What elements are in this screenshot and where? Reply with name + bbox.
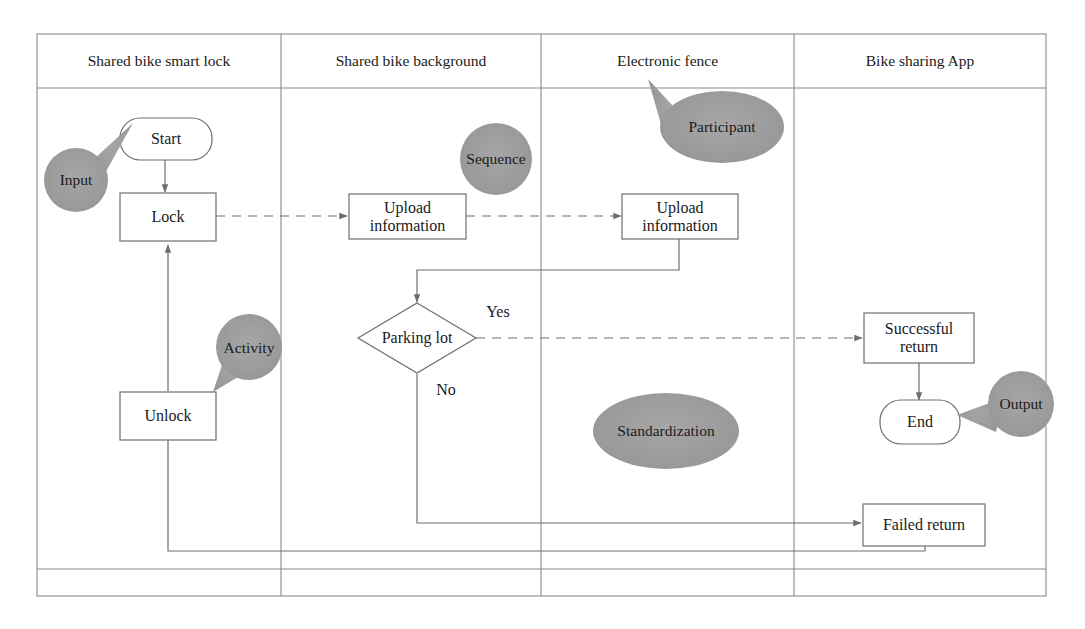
node-shape-parking-lot: [358, 303, 476, 373]
node-shape-start: [120, 118, 212, 160]
node-shape-end: [880, 400, 960, 444]
flowchart-canvas: Shared bike smart lock Shared bike backg…: [0, 0, 1085, 629]
flowchart-vector-layer: [0, 0, 1085, 629]
node-shape-upload-info-background: [349, 194, 466, 239]
node-shape-lock: [120, 193, 216, 241]
node-shape-upload-info-fence: [622, 194, 738, 239]
node-shape-failed-return: [863, 504, 985, 546]
annot-shape-participant: [660, 91, 784, 163]
annot-shape-sequence: [460, 123, 532, 195]
node-shape-successful-return: [864, 313, 974, 363]
node-shape-unlock: [120, 392, 216, 440]
annot-shape-activity: [216, 314, 282, 380]
annot-shape-standardization: [593, 393, 739, 469]
annot-shape-output: [988, 371, 1054, 437]
annot-shape-input: [44, 148, 108, 212]
edge-upload-fence-to-parking-lot: [417, 239, 679, 302]
